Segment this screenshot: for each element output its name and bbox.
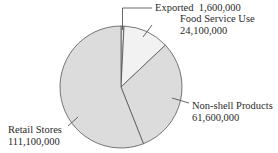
label-exported-name: Exported: [155, 2, 194, 13]
label-retail: Retail Stores 111,100,000: [8, 124, 62, 148]
label-food-service-value: 24,100,000: [180, 25, 255, 37]
label-non-shell: Non-shell Products 61,600,000: [192, 100, 273, 124]
label-non-shell-value: 61,600,000: [192, 112, 273, 124]
pie-slices: [60, 26, 182, 148]
label-food-service: Food Service Use 24,100,000: [180, 13, 255, 37]
label-food-service-name: Food Service Use: [180, 13, 255, 25]
label-non-shell-name: Non-shell Products: [192, 100, 273, 112]
label-exported-value: 1,600,000: [199, 2, 241, 13]
label-retail-value: 111,100,000: [8, 136, 62, 148]
label-retail-name: Retail Stores: [8, 124, 62, 136]
